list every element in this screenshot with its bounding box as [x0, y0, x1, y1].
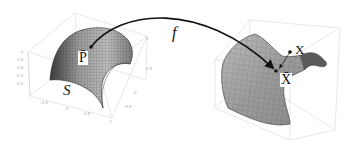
- label-p-bar: P̄: [78, 51, 88, 65]
- svg-text:0.4: 0.4: [17, 73, 24, 78]
- point-x-bar: [274, 69, 278, 73]
- svg-text:0: 0: [134, 90, 137, 95]
- svg-text:0.2: 0.2: [17, 81, 24, 86]
- label-x: X: [295, 42, 304, 58]
- svg-text:-0.5: -0.5: [40, 100, 48, 105]
- label-p-bar-text: P̄: [79, 50, 87, 65]
- svg-text:1: 1: [21, 49, 24, 54]
- label-x-bar-text: X̄: [281, 72, 291, 87]
- svg-text:0: 0: [66, 106, 69, 111]
- point-p-bar: [89, 45, 93, 49]
- label-s: S: [63, 82, 71, 99]
- svg-text:1: 1: [146, 36, 149, 41]
- label-f-text: f: [172, 24, 176, 41]
- svg-text:-1: -1: [108, 119, 112, 124]
- diagram-canvas: 1 0.8 0.6 0.4 0.2 -0.5 0 0.5 -1 0.5 0 -0…: [0, 0, 352, 150]
- label-x-text: X: [295, 42, 304, 57]
- svg-text:-0.5: -0.5: [124, 104, 132, 109]
- target-surface: [222, 34, 327, 125]
- svg-text:0.5: 0.5: [84, 111, 91, 116]
- label-s-text: S: [63, 82, 71, 98]
- svg-text:0.5: 0.5: [146, 66, 153, 71]
- label-x-bar: X̄: [280, 73, 292, 87]
- svg-text:0.6: 0.6: [17, 65, 24, 70]
- svg-text:0.8: 0.8: [17, 57, 24, 62]
- label-f: f: [172, 24, 176, 42]
